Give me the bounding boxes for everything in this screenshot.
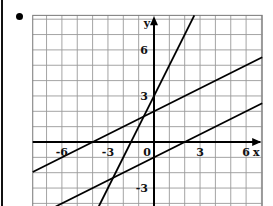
x-axis-label: x <box>253 146 260 159</box>
y-tick-label: 6 <box>140 44 148 57</box>
x-tick-label: 0 <box>143 146 151 159</box>
y-tick-label: 3 <box>140 90 148 103</box>
y-tick-label: -3 <box>136 182 148 195</box>
x-tick-label: 3 <box>196 146 204 159</box>
y-axis-arrow-icon <box>150 16 158 25</box>
x-tick-label: 6 <box>242 146 250 159</box>
tick-labels: -6-303663-3xy <box>56 17 260 195</box>
x-axis-arrow-icon <box>252 138 261 146</box>
y-axis-label: y <box>143 17 151 30</box>
x-tick-label: -6 <box>56 146 69 159</box>
coordinate-plane: -6-303663-3xy <box>0 0 273 206</box>
x-tick-label: -3 <box>102 146 114 159</box>
line-lower <box>56 103 262 206</box>
